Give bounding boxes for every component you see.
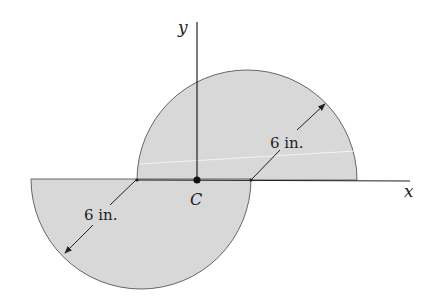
centroid-point xyxy=(194,177,201,184)
upper-radius-label: 6 in. xyxy=(270,134,304,152)
y-axis-label: y xyxy=(177,17,188,37)
centroid-label: C xyxy=(190,190,202,209)
figure: y x C 6 in. 6 in. xyxy=(0,0,432,304)
lower-semicircle xyxy=(31,179,251,289)
upper-semicircle xyxy=(137,70,357,180)
diagram-svg: y x C 6 in. 6 in. xyxy=(0,0,432,304)
x-axis-label: x xyxy=(404,181,414,201)
lower-radius-label: 6 in. xyxy=(84,206,118,224)
